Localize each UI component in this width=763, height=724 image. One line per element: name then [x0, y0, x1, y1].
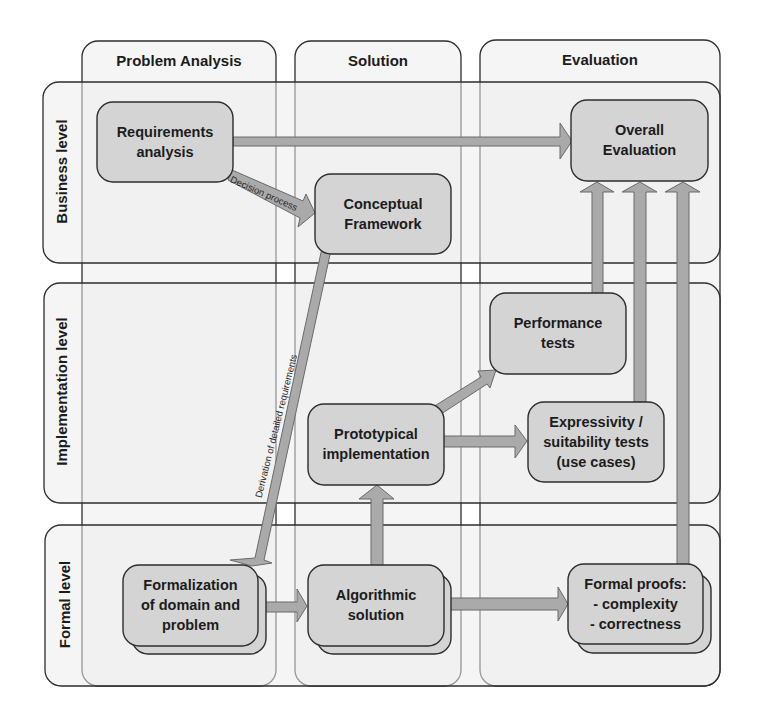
- node-algorithmic-solution: Algorithmic solution: [308, 585, 444, 625]
- node-prototypical-implementation: Prototypical implementation: [308, 424, 444, 464]
- row-header-formal: Formal level: [56, 545, 73, 665]
- node-formalization: Formalization of domain and problem: [123, 575, 258, 635]
- node-formal-proofs: Formal proofs: - complexity - correctnes…: [568, 574, 703, 634]
- node-requirements-analysis: Requirements analysis: [97, 122, 233, 162]
- column-header-evaluation: Evaluation: [480, 51, 720, 68]
- node-performance-tests: Performance tests: [490, 313, 626, 353]
- node-overall-evaluation: Overall Evaluation: [571, 120, 708, 160]
- row-header-implementation: Implementation level: [53, 287, 70, 497]
- column-header-solution: Solution: [295, 52, 461, 69]
- column-header-problem-analysis: Problem Analysis: [82, 52, 276, 69]
- node-conceptual-framework: Conceptual Framework: [315, 194, 451, 234]
- row-header-business: Business level: [53, 97, 70, 247]
- node-expressivity-tests: Expressivity / suitability tests (use ca…: [528, 412, 664, 472]
